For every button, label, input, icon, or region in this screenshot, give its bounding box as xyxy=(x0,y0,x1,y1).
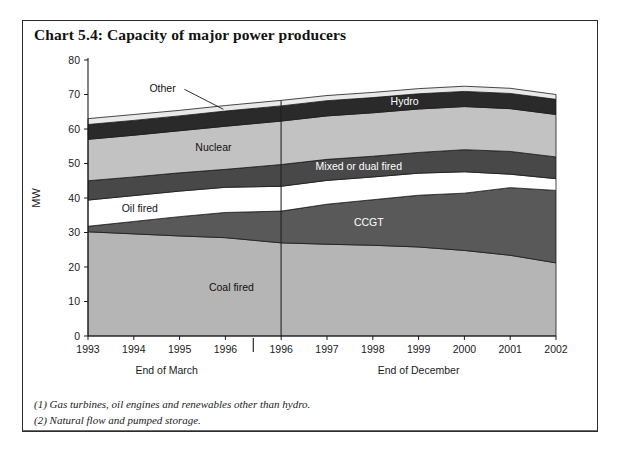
y-tick-label: 60 xyxy=(68,123,80,135)
y-tick-label: 70 xyxy=(68,88,80,100)
chart-canvas: 01020304050607080MW199319941995199619961… xyxy=(22,48,598,388)
other-leader-line xyxy=(184,89,223,109)
x-tick-label: 1996 xyxy=(270,343,294,355)
y-axis-title: MW xyxy=(30,188,42,208)
y-tick-label: 10 xyxy=(68,295,80,307)
series-label-coal: Coal fired xyxy=(209,281,254,293)
y-tick-label: 30 xyxy=(68,226,80,238)
series-label-hydro: Hydro xyxy=(391,95,419,107)
footnotes: (1) Gas turbines, oil engines and renewa… xyxy=(34,396,574,428)
page-title: Chart 5.4: Capacity of major power produ… xyxy=(34,26,346,44)
y-tick-label: 50 xyxy=(68,157,80,169)
footnote-2: (2) Natural flow and pumped storage. xyxy=(34,412,574,428)
x-tick-label: 2001 xyxy=(499,343,523,355)
x-tick-label: 1993 xyxy=(76,343,100,355)
x-tick-label: 1998 xyxy=(361,343,385,355)
series-label-mixed: Mixed or dual fired xyxy=(316,160,403,172)
x-tick-label: 2000 xyxy=(453,343,477,355)
x-tick-label: 2002 xyxy=(544,343,568,355)
footnote-rule xyxy=(23,430,597,431)
footnote-1: (1) Gas turbines, oil engines and renewa… xyxy=(34,396,574,412)
series-label-nuclear: Nuclear xyxy=(195,141,232,153)
period-label-december: End of December xyxy=(378,364,460,376)
series-label-other: Other xyxy=(149,82,176,94)
chart-page: Chart 5.4: Capacity of major power produ… xyxy=(0,0,624,451)
y-tick-label: 0 xyxy=(74,330,80,342)
series-label-ccgt: CCGT xyxy=(354,216,384,228)
series-label-oil: Oil fired xyxy=(122,202,158,214)
x-tick-label: 1995 xyxy=(168,343,192,355)
area-coal xyxy=(281,243,556,336)
stacked-area-chart: 01020304050607080MW199319941995199619961… xyxy=(22,48,598,388)
x-tick-label: 1996 xyxy=(214,343,238,355)
x-tick-label: 1999 xyxy=(407,343,431,355)
y-tick-label: 20 xyxy=(68,261,80,273)
y-tick-label: 40 xyxy=(68,192,80,204)
y-tick-label: 80 xyxy=(68,54,80,66)
area-series-group xyxy=(88,86,556,336)
x-tick-label: 1994 xyxy=(122,343,146,355)
x-tick-label: 1997 xyxy=(315,343,339,355)
period-label-march: End of March xyxy=(135,364,198,376)
